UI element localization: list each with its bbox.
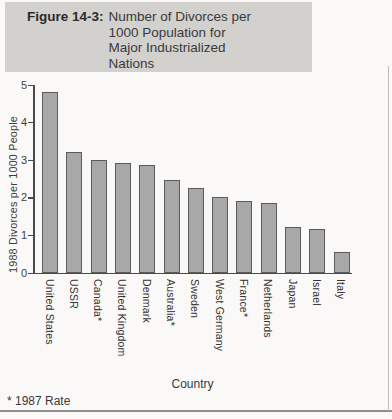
bar	[188, 188, 204, 274]
bar-label: Japan	[287, 279, 299, 309]
x-axis-label: Country	[33, 377, 352, 391]
bar	[212, 197, 228, 273]
bar	[285, 227, 301, 273]
bar	[115, 163, 131, 273]
bar	[42, 92, 58, 273]
y-tick-label: 1	[9, 229, 27, 242]
y-tick-label: 3	[9, 154, 27, 167]
bar-label: Netherlands	[262, 279, 274, 338]
bar-label: United Kingdom	[116, 279, 128, 357]
y-tick-label: 0	[9, 267, 27, 280]
bar-label: Israel	[311, 279, 323, 306]
bar-label: Canada*	[92, 279, 104, 321]
bar-chart: 1988 Divorces per 1000 People Country 01…	[0, 0, 392, 419]
bar	[236, 201, 252, 273]
y-tick-label: 2	[9, 191, 27, 204]
bar	[261, 203, 277, 274]
bar-label: Denmark	[141, 279, 153, 323]
bar-label: Sweden	[189, 279, 201, 318]
bar-label: Italy	[335, 279, 347, 299]
y-tick	[28, 235, 33, 236]
bar-label: United States	[44, 279, 56, 345]
bar	[164, 180, 180, 273]
y-tick	[28, 85, 33, 86]
bar	[139, 165, 155, 273]
bar	[334, 252, 350, 274]
bar-label: USSR	[68, 279, 80, 309]
y-tick	[28, 197, 33, 198]
page-frame-bottom-line	[0, 410, 392, 412]
y-tick-label: 5	[9, 79, 27, 92]
bar	[66, 152, 82, 273]
bar-label: France*	[238, 279, 250, 317]
bar	[309, 229, 325, 273]
footnote: * 1987 Rate	[7, 394, 70, 408]
bar-label: West Germany	[214, 279, 226, 351]
page-frame-right-line	[388, 66, 389, 411]
y-tick-label: 4	[9, 116, 27, 129]
bar	[91, 160, 107, 274]
y-tick	[28, 122, 33, 123]
y-axis-line	[33, 85, 35, 275]
y-tick	[28, 160, 33, 161]
y-tick	[28, 273, 33, 274]
bar-label: Australia*	[165, 279, 177, 326]
